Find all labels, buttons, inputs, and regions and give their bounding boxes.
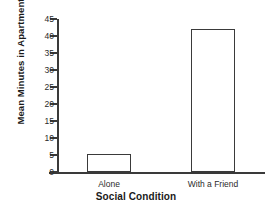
x-axis-title: Social Condition [0,191,272,202]
y-axis-tick-label: 0 [49,168,54,177]
y-axis-tick-label: 15 [45,117,54,126]
bar [191,29,235,172]
y-axis-tick-label: 30 [45,66,54,75]
bar [87,154,131,172]
x-axis-line [49,172,265,174]
y-axis-tick-label: 5 [49,151,54,160]
y-axis-title: Mean Minutes in Apartment [15,0,26,152]
y-axis-tick-label: 25 [45,83,54,92]
y-axis-tick-label: 40 [45,32,54,41]
x-axis-tick-label: With a Friend [188,179,239,189]
plot-area: 051015202530354045 AloneWith a Friend [57,19,265,172]
x-axis-tick-label: Alone [98,179,120,189]
y-axis-line [57,19,59,172]
y-axis-tick-label: 10 [45,134,54,143]
bar-chart: Mean Minutes in Apartment 05101520253035… [0,0,272,211]
y-axis-tick-label: 20 [45,100,54,109]
y-axis-tick-label: 35 [45,49,54,58]
y-axis-tick-label: 45 [45,15,54,24]
